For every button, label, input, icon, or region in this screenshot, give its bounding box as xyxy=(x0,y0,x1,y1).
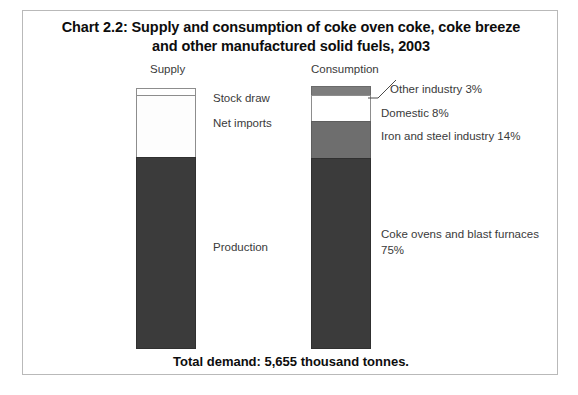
label-other-industry: Other industry 3% xyxy=(390,81,482,97)
bar-segment-other-industry xyxy=(311,86,371,95)
bar-segment-net-imports xyxy=(136,95,196,157)
bar-segment-production xyxy=(136,157,196,349)
supply-stacked-bar xyxy=(136,88,196,349)
column-header-supply: Supply xyxy=(150,63,185,75)
column-header-consumption: Consumption xyxy=(311,63,379,75)
label-net-imports: Net imports xyxy=(213,115,272,131)
chart-container: Chart 2.2: Supply and consumption of cok… xyxy=(22,10,558,375)
bar-segment-iron-and-steel-industry xyxy=(311,121,371,158)
label-production: Production xyxy=(213,239,268,255)
label-coke-ovens-and-blast-furnaces: Coke ovens and blast furnaces 75% xyxy=(381,226,541,258)
consumption-stacked-bar xyxy=(311,86,371,349)
total-demand-note: Total demand: 5,655 thousand tonnes. xyxy=(23,354,559,369)
bar-segment-stock-draw xyxy=(136,88,196,95)
bar-segment-coke-ovens-and-blast-furnaces xyxy=(311,158,371,349)
bar-segment-domestic xyxy=(311,95,371,121)
plot-area: Supply Consumption Stock draw Net import… xyxy=(23,11,559,376)
label-iron-and-steel-industry: Iron and steel industry 14% xyxy=(381,128,541,144)
label-stock-draw: Stock draw xyxy=(213,90,270,106)
label-domestic: Domestic 8% xyxy=(381,105,449,121)
